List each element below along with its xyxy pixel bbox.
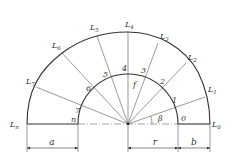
- ray-L5: [97, 36, 128, 124]
- label-point-0: 0: [181, 114, 186, 123]
- label-L0: L0: [211, 120, 221, 130]
- label-point-2: 2: [159, 77, 165, 86]
- dim-label-b: b: [191, 137, 197, 147]
- label-Ln: Ln: [9, 120, 19, 130]
- label-point-6: 6: [86, 84, 91, 93]
- ray-L6: [62, 53, 128, 124]
- label-point-4: 4: [121, 64, 127, 73]
- label-point-3: 3: [141, 66, 146, 75]
- label-L1: L1: [207, 85, 217, 95]
- beta-angle-arc: [151, 116, 152, 124]
- label-point-1: 1: [172, 96, 177, 105]
- label-L2: L2: [187, 53, 197, 63]
- ray-L1: [128, 97, 205, 124]
- dim-label-a: a: [49, 137, 54, 147]
- label-L5: L5: [89, 23, 99, 33]
- label-L3: L3: [159, 32, 169, 42]
- label-f: f: [132, 80, 138, 89]
- label-L7: L7: [25, 77, 35, 87]
- label-point-5: 5: [103, 70, 108, 79]
- label-beta: β: [157, 114, 163, 123]
- dim-label-r: r: [153, 137, 158, 147]
- elbow-development-diagram: a r b L0 L1 L2 L3 L4 L5 L6 L7 Ln 0 1 2 3…: [0, 0, 234, 164]
- label-L6: L6: [51, 41, 61, 51]
- label-point-n: n: [71, 115, 76, 124]
- label-L4: L4: [124, 20, 134, 30]
- ray-L7: [36, 87, 128, 124]
